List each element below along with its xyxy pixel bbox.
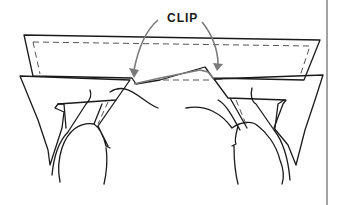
collar-diagram: CLIP [0, 0, 341, 205]
left-arrowhead-icon [129, 68, 139, 78]
right-arrowhead-icon [213, 63, 223, 71]
clip-label: CLIP [167, 11, 198, 25]
upper-collar-stitching [33, 42, 310, 76]
left-clip-arrow [134, 20, 158, 70]
right-shoulder-detail [186, 88, 290, 184]
right-collar-stand [214, 75, 323, 165]
right-clip-arrow [202, 22, 218, 64]
